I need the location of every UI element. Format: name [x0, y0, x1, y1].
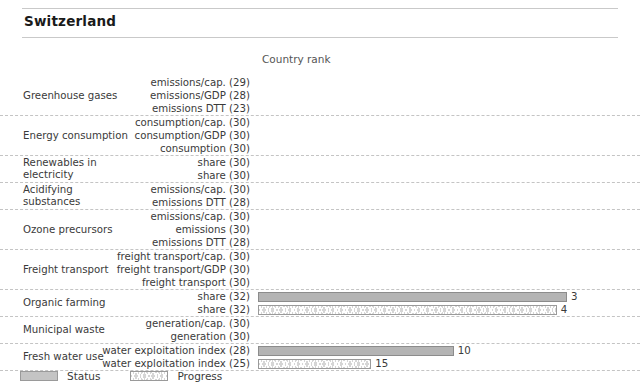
indicator-row[interactable]: consumption/cap. (30)	[0, 116, 640, 129]
indicator-row[interactable]: emissions/cap. (29)	[0, 76, 640, 89]
bar-area	[258, 250, 636, 263]
indicator-rows: emissions/cap. (30)emissions DTT (28)	[0, 183, 640, 209]
indicator-group: Renewables in electricityshare (30)share…	[0, 156, 640, 183]
indicator-row-label: share (32)	[0, 291, 250, 302]
bar-area	[258, 102, 636, 115]
indicator-rows: share (32)3share (32)4	[0, 290, 640, 316]
bar-value-label: 4	[561, 303, 567, 316]
progress-swatch-icon	[130, 371, 168, 381]
bar-area: 3	[258, 290, 636, 303]
indicator-group: Greenhouse gasesemissions/cap. (29)emiss…	[0, 76, 640, 116]
legend-item-progress: Progress	[130, 370, 222, 382]
legend-label-progress: Progress	[177, 370, 222, 382]
chart-body: Greenhouse gasesemissions/cap. (29)emiss…	[0, 76, 640, 371]
header-rule-top	[22, 8, 618, 9]
bar-area: 10	[258, 344, 636, 357]
bar-area	[258, 116, 636, 129]
indicator-group: Municipal wastegeneration/cap. (30)gener…	[0, 317, 640, 344]
indicator-row-label: generation (30)	[0, 331, 250, 342]
bar-area	[258, 263, 636, 276]
indicator-row-label: emissions/cap. (30)	[0, 184, 250, 195]
column-header-country-rank: Country rank	[262, 53, 331, 65]
bar-area	[258, 89, 636, 102]
indicator-row[interactable]: share (32)4	[0, 303, 640, 316]
bar-area	[258, 129, 636, 142]
bar-area	[258, 317, 636, 330]
bar-area	[258, 276, 636, 289]
indicator-row[interactable]: share (30)	[0, 169, 640, 182]
chart-legend: Status Progress	[0, 366, 640, 386]
indicator-row-label: emissions DTT (28)	[0, 237, 250, 248]
indicator-row-label: generation/cap. (30)	[0, 318, 250, 329]
indicator-row[interactable]: emissions/cap. (30)	[0, 210, 640, 223]
bar-area	[258, 223, 636, 236]
bar-area	[258, 196, 636, 209]
indicator-row[interactable]: freight transport/cap. (30)	[0, 250, 640, 263]
indicator-row-label: freight transport (30)	[0, 277, 250, 288]
bar-area	[258, 169, 636, 182]
indicator-rows: freight transport/cap. (30)freight trans…	[0, 250, 640, 289]
chart-page: Switzerland Country rank Greenhouse gase…	[0, 0, 640, 391]
indicator-row[interactable]: consumption (30)	[0, 142, 640, 155]
indicator-row-label: freight transport/GDP (30)	[0, 264, 250, 275]
indicator-row[interactable]: generation (30)	[0, 330, 640, 343]
indicator-row[interactable]: freight transport/GDP (30)	[0, 263, 640, 276]
indicator-rows: share (30)share (30)	[0, 156, 640, 182]
indicator-row-label: emissions DTT (28)	[0, 197, 250, 208]
indicator-row-label: emissions/GDP (28)	[0, 90, 250, 101]
indicator-row[interactable]: water exploitation index (28)10	[0, 344, 640, 357]
indicator-row-label: emissions/cap. (29)	[0, 77, 250, 88]
indicator-row[interactable]: consumption/GDP (30)	[0, 129, 640, 142]
page-title: Switzerland	[24, 13, 116, 29]
indicator-rows: emissions/cap. (29)emissions/GDP (28)emi…	[0, 76, 640, 115]
indicator-group: Energy consumptionconsumption/cap. (30)c…	[0, 116, 640, 156]
legend-item-status: Status	[20, 370, 100, 382]
indicator-row-label: consumption/GDP (30)	[0, 130, 250, 141]
indicator-row[interactable]: emissions DTT (23)	[0, 102, 640, 115]
bar-area	[258, 142, 636, 155]
bar-area	[258, 183, 636, 196]
indicator-row-label: emissions/cap. (30)	[0, 211, 250, 222]
indicator-row[interactable]: share (30)	[0, 156, 640, 169]
indicator-row[interactable]: emissions DTT (28)	[0, 196, 640, 209]
indicator-row[interactable]: emissions/cap. (30)	[0, 183, 640, 196]
indicator-row[interactable]: freight transport (30)	[0, 276, 640, 289]
indicator-row[interactable]: share (32)3	[0, 290, 640, 303]
indicator-row-label: consumption/cap. (30)	[0, 117, 250, 128]
header-rule-bottom	[22, 37, 618, 38]
indicator-group: Organic farmingshare (32)3share (32)4	[0, 290, 640, 317]
indicator-row-label: emissions DTT (23)	[0, 103, 250, 114]
indicator-rows: emissions/cap. (30)emissions (30)emissio…	[0, 210, 640, 249]
indicator-rows: consumption/cap. (30)consumption/GDP (30…	[0, 116, 640, 155]
indicator-row-label: share (30)	[0, 170, 250, 181]
indicator-row-label: share (32)	[0, 304, 250, 315]
bar-area	[258, 76, 636, 89]
status-bar[interactable]	[258, 346, 454, 356]
bar-area	[258, 210, 636, 223]
bar-area	[258, 156, 636, 169]
indicator-group: Acidifying substancesemissions/cap. (30)…	[0, 183, 640, 210]
status-swatch-icon	[20, 371, 58, 381]
indicator-row-label: water exploitation index (28)	[0, 345, 250, 356]
progress-bar[interactable]	[258, 305, 557, 315]
indicator-row-label: freight transport/cap. (30)	[0, 251, 250, 262]
status-bar[interactable]	[258, 292, 567, 302]
indicator-group: Ozone precursorsemissions/cap. (30)emiss…	[0, 210, 640, 250]
bar-area: 4	[258, 303, 636, 316]
indicator-row[interactable]: generation/cap. (30)	[0, 317, 640, 330]
bar-value-label: 3	[571, 290, 577, 303]
bar-area	[258, 236, 636, 249]
indicator-row-label: consumption (30)	[0, 143, 250, 154]
bar-value-label: 10	[458, 344, 471, 357]
indicator-row-label: share (30)	[0, 157, 250, 168]
bar-area	[258, 330, 636, 343]
indicator-group: Freight transportfreight transport/cap. …	[0, 250, 640, 290]
indicator-row[interactable]: emissions DTT (28)	[0, 236, 640, 249]
indicator-row[interactable]: emissions (30)	[0, 223, 640, 236]
indicator-row-label: emissions (30)	[0, 224, 250, 235]
indicator-row[interactable]: emissions/GDP (28)	[0, 89, 640, 102]
legend-label-status: Status	[67, 370, 100, 382]
indicator-rows: generation/cap. (30)generation (30)	[0, 317, 640, 343]
